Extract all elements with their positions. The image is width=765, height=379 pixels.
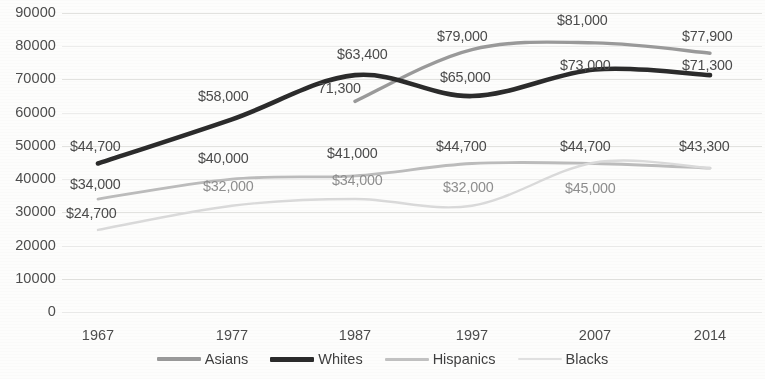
legend-swatch-icon	[157, 357, 201, 361]
x-axis-tick-label: 1997	[432, 327, 512, 343]
data-point-label: $63,400	[337, 46, 388, 62]
data-point-label: $34,000	[332, 172, 383, 188]
data-point-label: $45,000	[565, 180, 616, 196]
legend-label: Blacks	[566, 352, 609, 367]
data-point-label: 71,300	[318, 80, 361, 96]
legend-swatch-icon	[270, 357, 314, 362]
data-point-label: $73,000	[560, 57, 611, 73]
data-point-label: $81,000	[557, 12, 608, 28]
legend-item-asians[interactable]: Asians	[157, 352, 249, 367]
data-point-label: $43,300	[679, 138, 730, 154]
data-point-label: $32,000	[203, 178, 254, 194]
legend-swatch-icon	[518, 358, 562, 360]
data-point-label: $24,700	[66, 205, 117, 221]
legend-swatch-icon	[385, 358, 429, 361]
data-point-label: $71,300	[682, 57, 733, 73]
x-axis-tick-label: 1987	[315, 327, 395, 343]
legend-label: Hispanics	[433, 352, 496, 367]
data-point-label: $40,000	[198, 150, 249, 166]
data-point-label: $77,900	[682, 28, 733, 44]
series-line	[98, 69, 710, 164]
chart-legend: AsiansWhitesHispanicsBlacks	[0, 352, 765, 367]
data-point-label: $32,000	[443, 179, 494, 195]
legend-label: Whites	[318, 352, 362, 367]
x-axis-tick-label: 1967	[58, 327, 138, 343]
x-axis-tick-label: 1977	[192, 327, 272, 343]
data-point-label: $44,700	[70, 138, 121, 154]
data-point-label: $58,000	[198, 88, 249, 104]
x-axis-tick-label: 2014	[670, 327, 750, 343]
legend-item-whites[interactable]: Whites	[270, 352, 362, 367]
data-point-label: $79,000	[437, 28, 488, 44]
legend-item-hispanics[interactable]: Hispanics	[385, 352, 496, 367]
legend-label: Asians	[205, 352, 249, 367]
series-line	[98, 162, 710, 199]
data-point-label: $65,000	[440, 69, 491, 85]
line-chart: 9000080000700006000050000400003000020000…	[0, 0, 765, 379]
x-axis-tick-label: 2007	[555, 327, 635, 343]
data-point-label: $44,700	[560, 138, 611, 154]
data-point-label: $44,700	[436, 138, 487, 154]
data-point-label: $41,000	[327, 145, 378, 161]
data-point-label: $34,000	[70, 176, 121, 192]
legend-item-blacks[interactable]: Blacks	[518, 352, 609, 367]
